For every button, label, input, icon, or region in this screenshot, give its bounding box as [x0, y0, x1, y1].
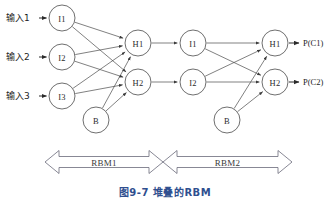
edge-rbm1-visible-3-to-rbm1-hidden-2 — [75, 85, 122, 94]
figure-caption: 图9-7 堆叠的RBM — [0, 184, 330, 198]
node-label: I2 — [58, 53, 65, 63]
nodes-layer: I1I2I3BH1H2I1I2BH1H2 — [49, 5, 288, 133]
network-diagram: 输入1输入2输入3P(C1)P(C2) I1I2I3BH1H2I1I2BH1H2… — [0, 0, 330, 182]
input-label-2: 输入2 — [6, 51, 30, 62]
node-rbm1-hidden-1: H1 — [125, 30, 151, 56]
edge-rbm1-visible-1-to-rbm1-hidden-2 — [72, 27, 126, 72]
node-rbm2-visible-1: I1 — [180, 30, 206, 56]
input-label-1: 输入1 — [6, 12, 30, 23]
node-label: H2 — [133, 78, 144, 88]
edge-rbm2-visible-2-to-rbm2-hidden-1 — [205, 50, 261, 76]
node-rbm1-visible-1: I1 — [49, 5, 75, 31]
rbm-span-label-1: RBM1 — [91, 158, 117, 168]
node-label: B — [224, 116, 230, 126]
node-rbm1-hidden-2: H2 — [125, 69, 151, 95]
edge-rbm2-visible-1-to-rbm2-hidden-2 — [205, 49, 261, 76]
node-label: I3 — [58, 92, 65, 102]
node-label: I1 — [58, 14, 65, 24]
node-label: I2 — [189, 78, 196, 88]
node-label: H1 — [133, 39, 144, 49]
edge-rbm1-visible-2-to-rbm1-hidden-1 — [75, 46, 122, 55]
edge-rbm1-visible-3-to-rbm1-hidden-1 — [73, 52, 125, 88]
input-label-3: 输入3 — [6, 90, 30, 101]
edge-rbm1-visible-1-to-rbm1-hidden-1 — [75, 22, 123, 38]
node-rbm2-bias: B — [214, 107, 240, 133]
rbm-span-label-2: RBM2 — [215, 158, 241, 168]
node-label: B — [93, 116, 99, 126]
node-label: H2 — [270, 78, 281, 88]
edge-rbm1-bias-to-rbm1-hidden-2 — [106, 92, 126, 110]
node-label: H1 — [270, 39, 281, 49]
node-rbm1-visible-2: I2 — [49, 44, 75, 70]
node-rbm2-hidden-2: H2 — [262, 69, 288, 95]
output-label-2: P(C2) — [303, 77, 323, 87]
output-label-1: P(C1) — [303, 38, 323, 48]
node-rbm2-hidden-1: H1 — [262, 30, 288, 56]
node-rbm1-bias: B — [83, 107, 109, 133]
edges-layer — [72, 22, 266, 111]
node-label: I1 — [189, 39, 196, 49]
rbm-span-arrows-layer: RBM1RBM2 — [45, 151, 292, 174]
edge-rbm2-bias-to-rbm2-hidden-2 — [238, 92, 263, 112]
stacked-rbm-figure: 输入1输入2输入3P(C1)P(C2) I1I2I3BH1H2I1I2BH1H2… — [0, 0, 330, 198]
node-rbm1-visible-3: I3 — [49, 83, 75, 109]
node-rbm2-visible-2: I2 — [180, 69, 206, 95]
